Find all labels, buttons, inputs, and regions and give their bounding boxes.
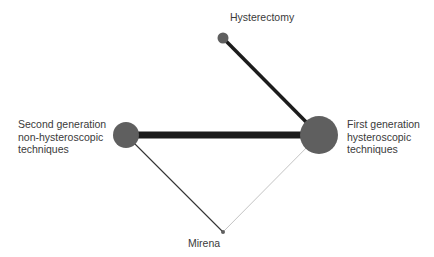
label-line: hysteroscopic [347,131,420,144]
edge-first_gen-mirena [223,135,319,232]
node-mirena [221,230,225,234]
label-hysterectomy: Hysterectomy [230,11,294,24]
label-line: Second generation [18,118,106,131]
label-second-generation: Second generation non-hysteroscopic tech… [18,118,106,156]
label-line: non-hysteroscopic [18,131,106,144]
label-line: First generation [347,118,420,131]
label-line: techniques [347,143,420,156]
edges-group [126,38,319,232]
edge-hysterectomy-first_gen [223,38,319,135]
node-first_gen [300,116,338,154]
label-mirena: Mirena [188,237,220,250]
label-line: techniques [18,143,106,156]
label-first-generation: First generation hysteroscopic technique… [347,118,420,156]
edge-second_gen-mirena [126,135,223,232]
label-line: Mirena [188,237,220,250]
node-second_gen [113,122,139,148]
label-line: Hysterectomy [230,11,294,24]
node-hysterectomy [218,33,229,44]
